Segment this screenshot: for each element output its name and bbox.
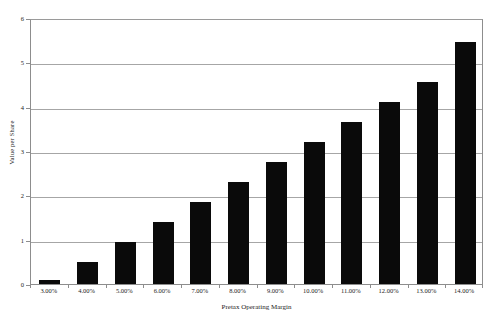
y-axis-tick-label: 0 bbox=[21, 282, 24, 289]
y-axis-tick-label: 6 bbox=[21, 16, 24, 23]
y-axis-tick-label: 1 bbox=[21, 237, 24, 244]
y-axis-tick-label: 2 bbox=[21, 193, 24, 200]
x-axis-tick-label: 14.00% bbox=[454, 288, 474, 295]
bars-layer bbox=[31, 20, 482, 284]
bar bbox=[455, 42, 476, 284]
x-axis-tick-labels: 3.00%4.00%5.00%6.00%7.00%8.00%9.00%10.00… bbox=[30, 288, 483, 302]
x-axis-tick-label: 11.00% bbox=[341, 288, 361, 295]
bar bbox=[39, 280, 60, 284]
x-axis-tick-label: 7.00% bbox=[191, 288, 208, 295]
bar bbox=[228, 182, 249, 284]
bar-chart-figure: Value per Share 0123456 3.00%4.00%5.00%6… bbox=[0, 0, 496, 327]
bar bbox=[77, 262, 98, 284]
y-axis-ticks: 0123456 bbox=[0, 0, 30, 327]
bar bbox=[115, 242, 136, 284]
bar bbox=[379, 102, 400, 284]
plot-area bbox=[30, 19, 483, 285]
bar bbox=[417, 82, 438, 284]
x-axis-tick-label: 3.00% bbox=[40, 288, 57, 295]
bar bbox=[153, 222, 174, 284]
x-axis-title: Pretax Operating Margin bbox=[30, 303, 483, 311]
bar bbox=[190, 202, 211, 284]
x-axis-tick-label: 12.00% bbox=[379, 288, 399, 295]
x-axis-tick-label: 9.00% bbox=[267, 288, 284, 295]
x-axis-tick-label: 8.00% bbox=[229, 288, 246, 295]
y-axis-tick-label: 4 bbox=[21, 104, 24, 111]
x-axis-tick-label: 6.00% bbox=[154, 288, 171, 295]
x-axis-tick-label: 13.00% bbox=[416, 288, 436, 295]
x-axis-tick-label: 10.00% bbox=[303, 288, 323, 295]
y-axis-tick-label: 5 bbox=[21, 60, 24, 67]
bar bbox=[304, 142, 325, 284]
bar bbox=[341, 122, 362, 284]
x-axis-tick-label: 5.00% bbox=[116, 288, 133, 295]
y-axis-tick-label: 3 bbox=[21, 149, 24, 156]
x-axis-tick-label: 4.00% bbox=[78, 288, 95, 295]
bar bbox=[266, 162, 287, 284]
